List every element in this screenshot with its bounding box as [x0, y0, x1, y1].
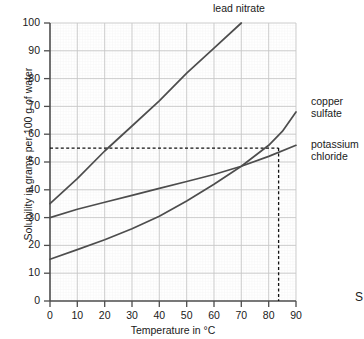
x-tick-label: 90: [284, 309, 308, 321]
series-label-potassium-chloride: potassium chloride: [311, 139, 359, 163]
x-tick-label: 50: [175, 309, 199, 321]
series-label-copper-sulfate: copper sulfate: [311, 96, 343, 120]
y-tick-label: 60: [14, 127, 40, 139]
y-tick-label: 70: [14, 99, 40, 111]
y-tick-label: 0: [14, 294, 40, 306]
x-tick-label: 80: [257, 309, 281, 321]
x-tick-label: 30: [120, 309, 144, 321]
x-tick-label: 20: [93, 309, 117, 321]
y-tick-label: 100: [14, 16, 40, 28]
y-tick-label: 30: [14, 211, 40, 223]
y-tick-label: 90: [14, 44, 40, 56]
x-tick-label: 0: [38, 309, 62, 321]
cut-off-right-text: S: [355, 290, 363, 304]
y-tick-label: 10: [14, 266, 40, 278]
x-tick-label: 10: [65, 309, 89, 321]
series-label-lead-nitrate: lead nitrate: [213, 2, 265, 14]
y-tick-label: 50: [14, 155, 40, 167]
y-tick-label: 20: [14, 238, 40, 250]
y-tick-label: 40: [14, 183, 40, 195]
x-tick-label: 70: [229, 309, 253, 321]
x-tick-label: 60: [202, 309, 226, 321]
x-axis-title: Temperature in °C: [50, 324, 296, 336]
chart-canvas: [0, 0, 364, 339]
y-tick-label: 80: [14, 72, 40, 84]
chart-figure: lead nitrate copper sulfate potassium ch…: [0, 0, 364, 339]
x-tick-label: 40: [147, 309, 171, 321]
